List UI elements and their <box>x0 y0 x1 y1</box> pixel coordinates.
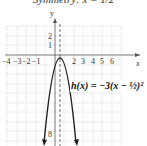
curve-arrow-right-icon <box>74 139 79 146</box>
x-tick-neg4: −4 <box>2 57 11 66</box>
x-axis-arrow-icon <box>135 53 140 57</box>
parabola-chart: y x −4 −3 −2 −1 2 3 4 5 6 2 1 8 h(x) = −… <box>0 0 147 146</box>
function-equation: h(x) = −3(x − ½)² <box>71 80 144 92</box>
x-tick-neg1: −1 <box>32 57 41 66</box>
x-tick-5: 5 <box>100 57 104 66</box>
x-tick-4: 4 <box>91 57 95 66</box>
y-tick-neg8: 8 <box>48 130 52 139</box>
x-tick-6: 6 <box>110 57 114 66</box>
x-tick-neg3: −3 <box>13 57 22 66</box>
y-axis-label: y <box>50 9 54 18</box>
y-tick-2: 2 <box>48 32 52 41</box>
curve-arrow-left-icon <box>42 139 47 146</box>
y-tick-1: 1 <box>48 41 52 50</box>
x-tick-2: 2 <box>72 57 76 66</box>
x-axis-label: x <box>135 59 140 68</box>
x-tick-neg2: −2 <box>22 57 31 66</box>
x-tick-3: 3 <box>81 57 85 66</box>
y-axis-arrow-icon <box>53 18 57 23</box>
